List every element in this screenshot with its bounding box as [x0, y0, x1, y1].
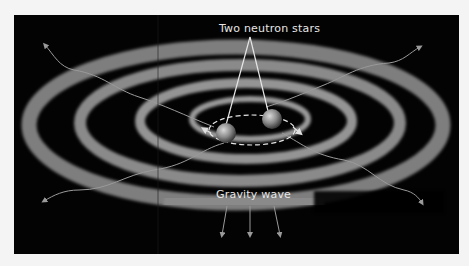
- neutron-stars-label: Two neutron stars: [219, 22, 320, 35]
- neutron-star-1: [216, 123, 236, 143]
- gravity-wave-illustration: [14, 15, 459, 254]
- neutron-star-2: [262, 109, 282, 129]
- diagram-panel: Two neutron stars Gravity wave: [14, 15, 459, 254]
- gravity-wave-label: Gravity wave: [216, 188, 291, 201]
